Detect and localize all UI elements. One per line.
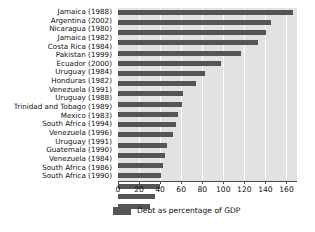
legend-swatch-debt: [113, 207, 131, 215]
bar-row: [118, 30, 297, 39]
chart-legend: Debt as percentage of GDP: [113, 206, 240, 215]
x-tick-label: 100: [216, 185, 231, 194]
bar-row: [118, 112, 297, 121]
debt-percentage-bar-chart: Jamaica (1988)Argentina (2002)Nicaragua …: [0, 0, 315, 232]
bar-row: [118, 10, 297, 19]
legend-label-debt: Debt as percentage of GDP: [137, 206, 240, 215]
bar-series: [118, 8, 297, 181]
bar-row: [118, 153, 297, 162]
bar: [118, 10, 293, 15]
x-tick-label: 60: [176, 185, 186, 194]
x-tick-label: 80: [197, 185, 207, 194]
bar: [118, 71, 205, 76]
plot-area: [118, 8, 297, 181]
bar: [118, 102, 182, 107]
bar: [118, 51, 241, 56]
bar: [118, 122, 176, 127]
x-tick-mark: [139, 181, 140, 184]
bar: [118, 132, 173, 137]
bar: [118, 20, 271, 25]
x-tick-label: 20: [134, 185, 144, 194]
bar-row: [118, 163, 297, 172]
category-axis-labels: Jamaica (1988)Argentina (2002)Nicaragua …: [0, 8, 115, 181]
bar-row: [118, 51, 297, 60]
bar: [118, 40, 258, 45]
bar-row: [118, 132, 297, 141]
x-tick-mark: [202, 181, 203, 184]
bar-row: [118, 61, 297, 70]
bar: [118, 153, 165, 158]
x-tick-label: 140: [258, 185, 273, 194]
x-tick-mark: [181, 181, 182, 184]
bar-row: [118, 40, 297, 49]
x-tick-mark: [160, 181, 161, 184]
bar: [118, 173, 161, 178]
bar: [118, 81, 196, 86]
bar-row: [118, 122, 297, 131]
category-label: South Africa (1990): [0, 172, 115, 181]
bar: [118, 30, 266, 35]
bar-row: [118, 143, 297, 152]
bar: [118, 112, 178, 117]
bar-row: [118, 20, 297, 29]
x-tick-label: 120: [237, 185, 252, 194]
bar-row: [118, 91, 297, 100]
x-tick-label: 40: [155, 185, 165, 194]
bar-row: [118, 81, 297, 90]
bar-row: [118, 102, 297, 111]
x-axis-ticks: 020406080100120140160: [118, 181, 297, 197]
bar: [118, 163, 163, 168]
x-tick-mark: [118, 181, 119, 184]
x-tick-mark: [265, 181, 266, 184]
bar: [118, 61, 221, 66]
x-tick-mark: [244, 181, 245, 184]
x-tick-mark: [223, 181, 224, 184]
bar: [118, 91, 183, 96]
x-tick-label: 0: [116, 185, 121, 194]
bar: [118, 143, 167, 148]
bar-row: [118, 71, 297, 80]
x-tick-label: 160: [279, 185, 294, 194]
x-tick-mark: [286, 181, 287, 184]
